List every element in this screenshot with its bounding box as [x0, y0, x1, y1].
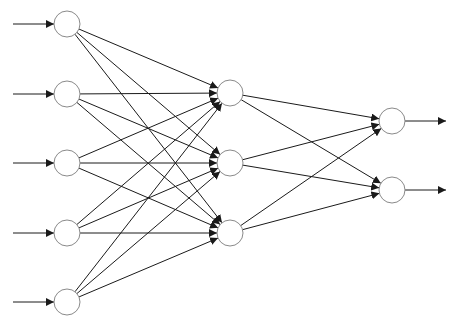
hidden-neuron	[217, 150, 243, 176]
connection-arrow	[243, 124, 380, 159]
hidden-neuron	[217, 80, 243, 106]
connection-arrow	[79, 29, 218, 88]
connection-arrow	[75, 103, 222, 291]
hidden-neuron	[217, 220, 243, 246]
input-neuron	[54, 150, 80, 176]
output-neuron	[379, 177, 405, 203]
connection-arrow	[80, 93, 217, 94]
neural-network-diagram	[0, 0, 460, 326]
input-neuron	[54, 81, 80, 107]
input-neuron	[54, 11, 80, 37]
input-neuron	[54, 289, 80, 315]
connection-arrow	[243, 95, 379, 119]
input-neuron	[54, 220, 80, 246]
connection-arrow	[79, 238, 218, 297]
output-neuron	[379, 108, 405, 134]
connection-arrow	[243, 193, 380, 229]
